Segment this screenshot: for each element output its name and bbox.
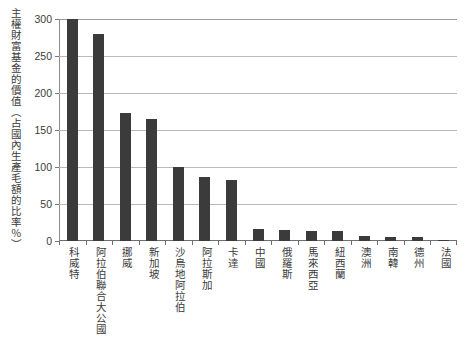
bar — [120, 113, 131, 241]
x-axis-tick-group — [59, 241, 457, 246]
y-axis-tick-label: 250 — [22, 50, 52, 62]
x-axis-category-label: 馬來西亞 — [305, 247, 318, 291]
bar — [146, 119, 157, 241]
bars-group — [59, 19, 457, 241]
x-axis-category-label: 澳洲 — [358, 247, 371, 269]
x-axis-category-label: 中國 — [252, 247, 265, 269]
bar — [173, 167, 184, 241]
y-axis-tick-label: 100 — [22, 161, 52, 173]
bar — [93, 34, 104, 241]
x-axis-tick-mark — [218, 241, 219, 245]
x-axis-category-label: 新加坡 — [145, 247, 158, 280]
x-axis-tick-mark — [430, 241, 431, 245]
x-axis-tick-mark — [59, 241, 60, 245]
y-axis-tick-label: 0 — [22, 235, 52, 247]
x-axis-tick-mark — [139, 241, 140, 245]
x-axis-tick-mark — [324, 241, 325, 245]
x-axis-tick-mark — [351, 241, 352, 245]
x-axis-tick-mark — [245, 241, 246, 245]
x-axis-tick-mark — [377, 241, 378, 245]
x-axis-tick-mark — [192, 241, 193, 245]
bar — [306, 231, 317, 241]
x-axis-category-labels: 科威特阿拉伯聯合大公國挪威新加坡沙烏地阿拉伯阿拉斯加卡達中國俄羅斯馬來西亞紐西蘭… — [59, 247, 457, 341]
x-axis-tick-mark — [165, 241, 166, 245]
x-axis-category-label: 紐西蘭 — [331, 247, 344, 280]
bar — [279, 230, 290, 241]
x-axis-category-label: 法國 — [437, 247, 450, 269]
x-axis-category-label: 科威特 — [66, 247, 79, 280]
y-axis-tick-label: 300 — [22, 13, 52, 25]
x-axis-tick-mark — [271, 241, 272, 245]
bar — [226, 180, 237, 241]
x-axis-category-label: 沙烏地阿拉伯 — [172, 247, 185, 313]
y-axis-tick-label: 50 — [22, 198, 52, 210]
bar — [67, 19, 78, 241]
x-axis-tick-mark — [86, 241, 87, 245]
x-axis-tick-mark — [404, 241, 405, 245]
x-axis-category-label: 挪威 — [119, 247, 132, 269]
x-axis-category-label: 阿拉斯加 — [198, 247, 211, 291]
bar — [253, 229, 264, 241]
x-axis-category-label: 阿拉伯聯合大公國 — [92, 247, 105, 335]
x-axis-category-label: 德州 — [411, 247, 424, 269]
y-axis-tick-label: 200 — [22, 87, 52, 99]
x-axis-category-label: 俄羅斯 — [278, 247, 291, 280]
bar — [332, 231, 343, 241]
bar-chart-figure: 主權財富基金的價值（占國內生產毛額的比率％） 30025020015010050… — [0, 0, 465, 343]
bar — [199, 177, 210, 241]
x-axis-tick-mark — [456, 241, 457, 245]
x-axis-category-label: 卡達 — [225, 247, 238, 269]
y-axis-tick-label: 150 — [22, 124, 52, 136]
x-axis-category-label: 南韓 — [384, 247, 397, 269]
x-axis-tick-mark — [298, 241, 299, 245]
x-axis-tick-mark — [112, 241, 113, 245]
plot-area — [59, 19, 457, 241]
y-axis-tick-group: 300250200150100500 — [20, 19, 59, 241]
y-axis-title: 主權財富基金的價值（占國內生產毛額的比率％） — [1, 8, 20, 266]
